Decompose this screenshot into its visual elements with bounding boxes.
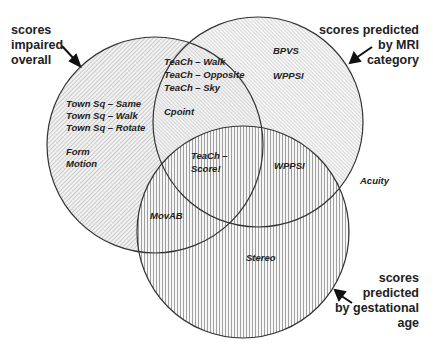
caption-mri-category: scores predicted by MRI category (319, 23, 419, 68)
label-wppsi-b: WPPSI (273, 70, 304, 83)
label-town-sq-rotate: Town Sq – Rotate (66, 122, 145, 135)
label-wppsi-bc: WPPSI (274, 160, 305, 173)
label-stereo: Stereo (246, 252, 276, 265)
label-form: Form (66, 146, 90, 159)
label-cpoint: Cpoint (164, 106, 194, 119)
label-acuity: Acuity (360, 175, 389, 188)
label-bpvs: BPVS (273, 45, 299, 58)
arrow-icon (62, 46, 80, 66)
label-teach-walk: TeaCh – Walk (164, 56, 225, 69)
label-teach-opposite: TeaCh – Opposite (164, 69, 244, 82)
label-teach-score-1: TeaCh – (191, 150, 228, 163)
label-town-sq-walk: Town Sq – Walk (66, 110, 138, 123)
caption-impaired-overall: scores impaired overall (11, 23, 63, 68)
label-movab: MovAB (150, 210, 183, 223)
label-teach-score-2: Score! (191, 163, 221, 176)
label-teach-sky: TeaCh – Sky (164, 82, 220, 95)
set-c-circle (137, 126, 349, 338)
caption-gestational-age: scores predicted by gestational age (335, 271, 419, 331)
label-motion: Motion (66, 158, 97, 171)
label-town-sq-same: Town Sq – Same (66, 98, 141, 111)
